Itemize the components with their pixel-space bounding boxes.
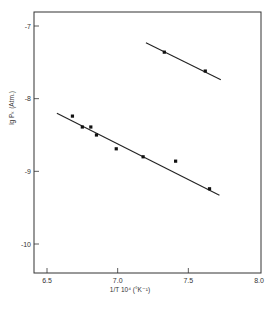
data-points xyxy=(71,51,211,191)
x-axis-ticks: 6.57.07.58.0 xyxy=(42,268,264,284)
y-tick-label: -8 xyxy=(25,95,31,102)
data-point xyxy=(163,51,166,54)
x-axis-label: 1/T 10⁴ (°K⁻¹) xyxy=(110,286,150,294)
x-tick-label: 8.0 xyxy=(254,277,264,284)
data-point xyxy=(81,125,84,128)
x-tick-label: 6.5 xyxy=(42,277,52,284)
data-point xyxy=(208,187,211,190)
data-point xyxy=(95,133,98,136)
fit-line xyxy=(146,43,221,80)
data-point xyxy=(71,115,74,118)
y-axis-ticks: -7-8-9-10 xyxy=(21,23,39,248)
chart: 6.57.07.58.0 -7-8-9-10 1/T 10⁴ (°K⁻¹) lg… xyxy=(0,0,274,309)
data-point xyxy=(204,69,207,72)
x-tick-label: 7.5 xyxy=(183,277,193,284)
y-tick-label: -7 xyxy=(25,23,31,30)
x-tick-label: 7.0 xyxy=(113,277,123,284)
data-point xyxy=(142,155,145,158)
fit-lines xyxy=(57,43,221,196)
y-tick-label: -10 xyxy=(21,241,31,248)
data-point xyxy=(115,147,118,150)
plot-frame xyxy=(34,12,261,273)
y-axis-label: lg Pₖ (Atm.) xyxy=(8,91,16,125)
data-point xyxy=(174,160,177,163)
y-tick-label: -9 xyxy=(25,168,31,175)
data-point xyxy=(89,125,92,128)
